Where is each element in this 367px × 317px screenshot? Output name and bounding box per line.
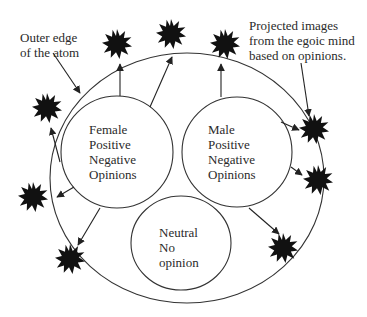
circle-label-line: Opinions: [208, 167, 256, 182]
projected-images-annotation: Projected images from the egoic mind bas…: [249, 18, 355, 63]
circle-label-line: opinion: [159, 255, 199, 270]
circle-label-line: Negative: [89, 152, 137, 167]
star-icon: [268, 233, 298, 263]
circle-label-line: Female: [89, 122, 137, 137]
female-circle-label: Female Positive Negative Opinions: [89, 122, 137, 182]
star-icon: [102, 29, 132, 59]
circle-label-line: No: [159, 240, 199, 255]
star-icon: [156, 19, 186, 49]
outer-edge-annotation: Outer edge of the atom: [20, 30, 79, 60]
star-icon: [55, 244, 85, 274]
star-icon: [210, 29, 240, 59]
star-icon: [18, 182, 48, 212]
annotation-line: of the atom: [20, 45, 79, 60]
circle-label-line: Neutral: [159, 225, 199, 240]
circle-label-line: Positive: [89, 137, 137, 152]
annotation-line: Projected images: [249, 18, 355, 33]
star-icon: [32, 93, 62, 123]
circle-label-line: Negative: [208, 152, 256, 167]
circle-label-line: Opinions: [89, 167, 137, 182]
circle-label-line: Positive: [208, 137, 256, 152]
annotation-line: from the egoic mind: [249, 33, 355, 48]
star-icon: [299, 114, 329, 144]
male-circle-label: Male Positive Negative Opinions: [208, 122, 256, 182]
annotation-line: Outer edge: [20, 30, 79, 45]
star-icon: [303, 165, 333, 195]
annotation-line: based on opinions.: [249, 48, 355, 63]
circle-label-line: Male: [208, 122, 256, 137]
neutral-circle-label: Neutral No opinion: [159, 225, 199, 270]
